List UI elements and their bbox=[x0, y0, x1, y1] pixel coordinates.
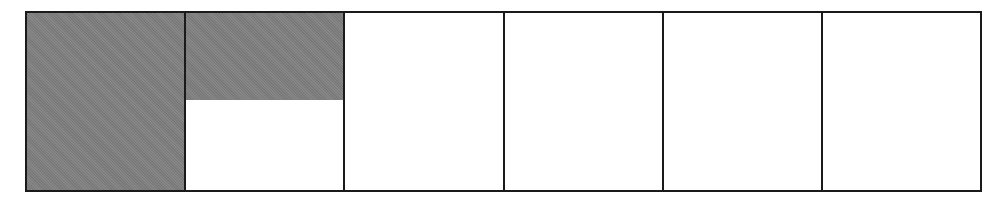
strip-cell-1 bbox=[27, 13, 186, 190]
shaded-region bbox=[27, 13, 184, 190]
strip-cell-3 bbox=[345, 13, 504, 190]
strip-cell-2 bbox=[186, 13, 345, 190]
strip-cell-5 bbox=[664, 13, 823, 190]
strip-cell-4 bbox=[505, 13, 664, 190]
strip-cell-6 bbox=[823, 13, 980, 190]
fraction-strip bbox=[25, 11, 982, 192]
shaded-region bbox=[186, 13, 343, 100]
